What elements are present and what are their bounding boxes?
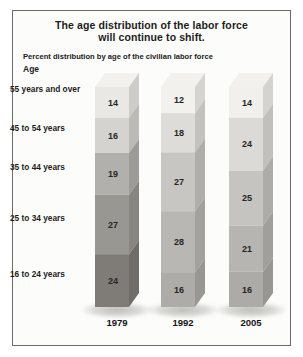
segment-value: 16	[174, 285, 184, 295]
segment-value: 12	[174, 95, 184, 105]
segment-value: 25	[242, 193, 252, 203]
segment-value: 24	[242, 139, 252, 149]
segment-value: 16	[108, 131, 118, 141]
chart-title-line2: will continue to shift.	[13, 31, 290, 43]
age-group-label: 45 to 54 years	[10, 125, 88, 135]
bar-1979: 1416192724	[95, 73, 141, 309]
segment-value: 27	[174, 177, 184, 187]
year-label-2005: 2005	[221, 317, 281, 328]
segment-value: 18	[174, 128, 184, 138]
year-label-1992: 1992	[153, 317, 213, 328]
segment-value: 14	[242, 98, 252, 108]
segment-value: 24	[108, 276, 118, 286]
segment-value: 16	[242, 285, 252, 295]
bar-2005: 1424252116	[229, 73, 275, 309]
age-group-label: 16 to 24 years	[10, 270, 88, 280]
age-group-label: 25 to 34 years	[10, 214, 88, 224]
age-group-label: 35 to 44 years	[10, 163, 88, 173]
chart-subtitle: Percent distribution by age of the civil…	[23, 52, 273, 61]
segment-value: 27	[108, 220, 118, 230]
chart-title: The age distribution of the labor force …	[13, 19, 290, 43]
segment-value: 19	[108, 169, 118, 179]
chart-title-line1: The age distribution of the labor force	[13, 19, 290, 31]
age-group-label: 55 years and over	[10, 86, 88, 96]
age-axis-label: Age	[23, 64, 39, 74]
segment-value: 21	[242, 244, 252, 254]
segment-value: 28	[174, 237, 184, 247]
bar-1992: 1218272816	[161, 73, 207, 309]
year-label-1979: 1979	[87, 317, 147, 328]
segment-value: 14	[108, 98, 118, 108]
